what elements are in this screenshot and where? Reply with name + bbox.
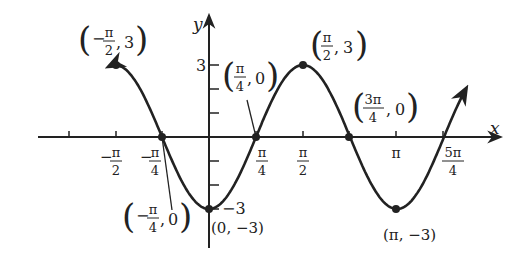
svg-text:(: ( xyxy=(222,55,235,95)
y-axis-label: y xyxy=(192,14,203,34)
y-tick-label-3: 3 xyxy=(196,56,206,75)
svg-text:4: 4 xyxy=(236,79,244,94)
svg-text:π: π xyxy=(149,202,158,217)
svg-text:): ) xyxy=(179,196,192,236)
svg-text:3: 3 xyxy=(343,38,353,57)
svg-text:,: , xyxy=(116,33,121,52)
x-axis-label: x xyxy=(490,118,500,138)
x-tick-label-pi4: π 4 xyxy=(256,145,268,178)
svg-text:−: − xyxy=(100,148,113,166)
annotation-3pi4-0: ( 3π 4 , 0 ) xyxy=(352,86,419,126)
svg-text:,: , xyxy=(386,100,391,119)
svg-text:2: 2 xyxy=(112,163,120,178)
svg-text:4: 4 xyxy=(149,220,157,235)
svg-text:(: ( xyxy=(78,19,91,59)
svg-text:−: − xyxy=(136,206,149,225)
svg-text:): ) xyxy=(135,19,148,59)
svg-text:3: 3 xyxy=(124,33,134,52)
y-tick-label-neg3: −3 xyxy=(222,199,246,218)
x-tick-label-neg-pi2: − π 2 xyxy=(100,145,122,178)
svg-text:2: 2 xyxy=(105,43,113,58)
svg-text:π: π xyxy=(323,30,332,45)
svg-text:−: − xyxy=(92,29,105,48)
svg-text:π: π xyxy=(112,145,121,160)
svg-text:π: π xyxy=(299,145,308,160)
x-tick-label-pi2: π 2 xyxy=(297,145,309,178)
svg-text:(: ( xyxy=(352,86,365,126)
svg-text:3π: 3π xyxy=(365,92,382,107)
svg-text:0: 0 xyxy=(168,210,178,229)
svg-text:π: π xyxy=(105,25,114,40)
svg-text:(: ( xyxy=(310,24,323,64)
svg-text:4: 4 xyxy=(369,110,377,125)
svg-text:4: 4 xyxy=(258,163,266,178)
sine-graph: x y 3 −3 − π 2 xyxy=(0,0,531,267)
svg-text:π: π xyxy=(258,145,267,160)
leader-line-pi4 xyxy=(247,100,256,137)
x-tick-label-pi: π xyxy=(391,145,400,161)
svg-text:π: π xyxy=(151,145,160,160)
svg-text:): ) xyxy=(406,86,419,126)
svg-text:0: 0 xyxy=(395,100,405,119)
annotation-pi-neg3: (π, −3) xyxy=(383,226,436,244)
svg-text:,: , xyxy=(334,38,339,57)
annotation-neg-pi2-3: ( − π 2 , 3 ) xyxy=(78,19,148,59)
annotation-pi2-3: ( π 2 , 3 ) xyxy=(310,24,368,64)
svg-text:2: 2 xyxy=(323,48,331,63)
annotation-0-neg3: (0, −3) xyxy=(211,219,264,237)
annotation-pi4-0: ( π 4 , 0 ) xyxy=(222,55,279,95)
svg-text:(: ( xyxy=(122,196,135,236)
svg-text:,: , xyxy=(160,210,165,229)
svg-text:): ) xyxy=(266,55,279,95)
svg-text:4: 4 xyxy=(151,163,159,178)
svg-text:5π: 5π xyxy=(445,145,462,160)
svg-text:,: , xyxy=(247,69,252,88)
svg-text:): ) xyxy=(355,24,368,64)
svg-text:2: 2 xyxy=(299,163,307,178)
annotation-neg-pi4-0: ( − π 4 , 0 ) xyxy=(122,196,192,236)
svg-text:π: π xyxy=(236,61,245,76)
x-tick-label-5pi4: 5π 4 xyxy=(442,145,464,178)
svg-text:0: 0 xyxy=(255,69,265,88)
svg-text:4: 4 xyxy=(449,163,457,178)
x-tick-label-neg-pi4: − π 4 xyxy=(140,145,161,178)
